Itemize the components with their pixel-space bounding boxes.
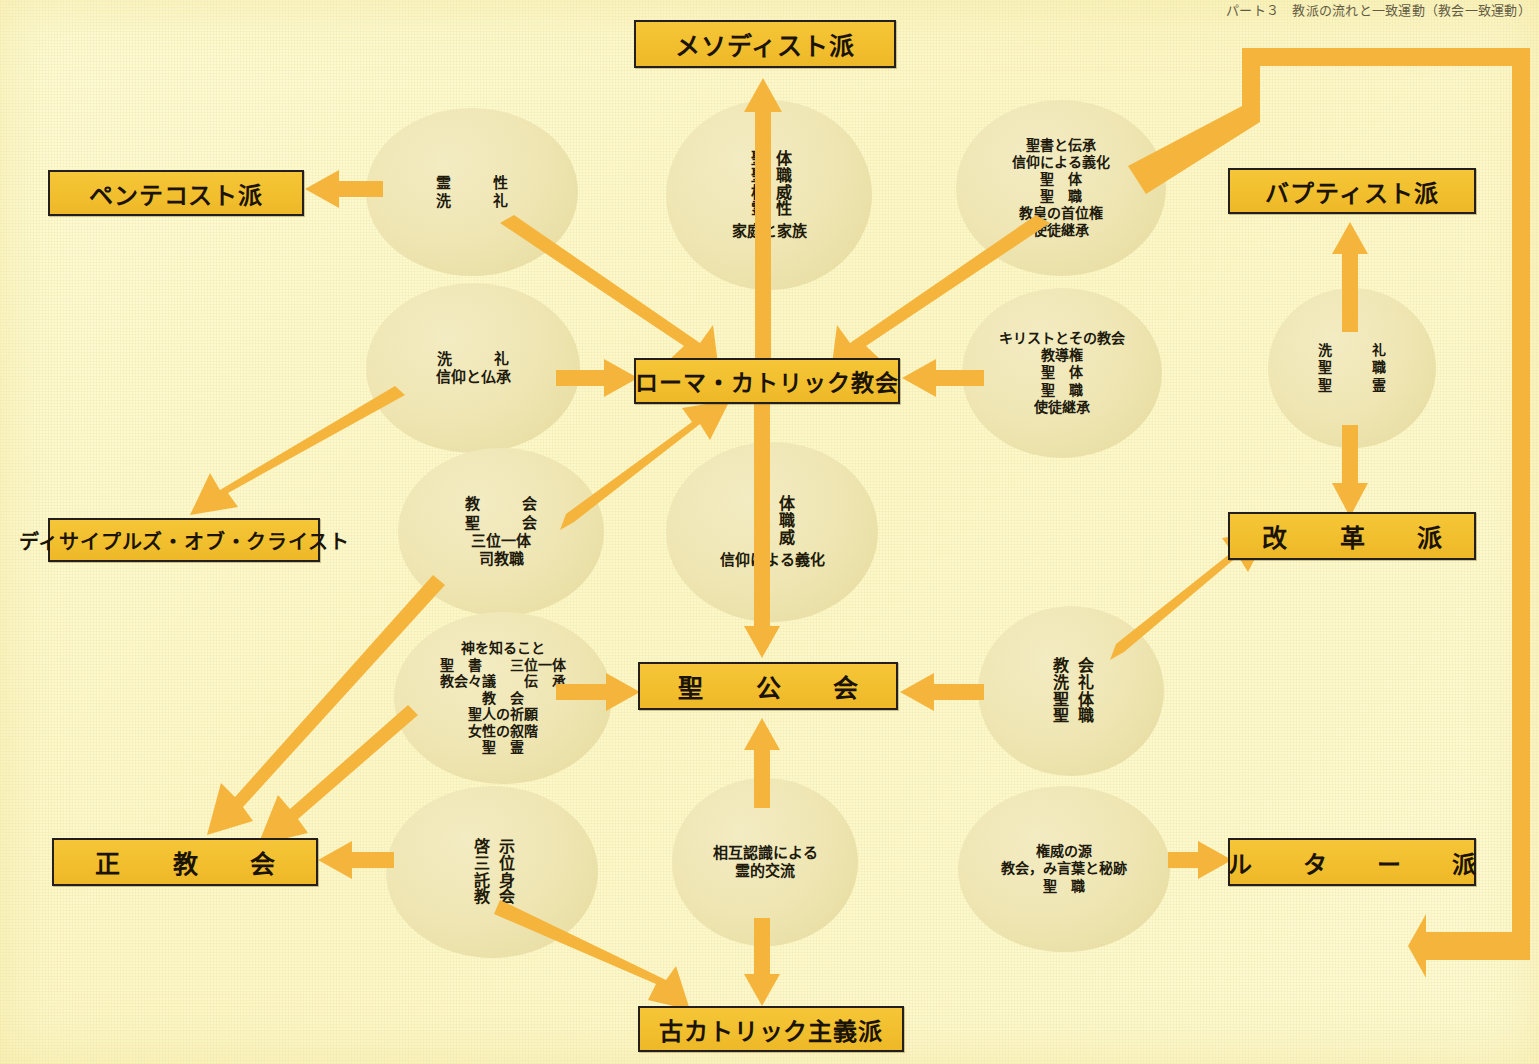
arrow-to-pentecostal — [305, 168, 383, 210]
ellipse-line: 聖 職 — [1001, 878, 1127, 895]
arrow-catholic-to-anglican — [742, 398, 782, 658]
ellipse-line: 三位一体 — [452, 532, 551, 550]
box-roman-catholic[interactable]: ローマ・カトリック教会 — [634, 358, 900, 404]
ellipse-line: 聖 会 — [452, 514, 551, 532]
ellipse-line: 聖 書 三位一体 — [440, 657, 566, 674]
box-old-catholic[interactable]: 古カトリック主義派 — [638, 1006, 904, 1052]
arrow-scripture-to-catholic — [830, 215, 1050, 380]
ellipse-line: 信仰による義化 — [1012, 154, 1110, 171]
ellipse-line: 聖 職 — [999, 382, 1125, 399]
ellipse-line: 聖 職 — [1012, 188, 1110, 205]
diagram-canvas: パート３ 教派の流れと一致運動（教会一致運動） — [0, 0, 1539, 1064]
ellipse-line: 霊的交流 — [713, 862, 818, 880]
corner-note: パート３ 教派の流れと一致運動（教会一致運動） — [1226, 0, 1531, 19]
box-baptist[interactable]: バプティスト派 — [1228, 168, 1476, 214]
ellipse-line: 女性の叙階 — [440, 723, 566, 740]
arrow-knowinggod-to-anglican — [556, 672, 640, 712]
arrow-baptism-to-catholic — [556, 358, 638, 398]
arrow-knowinggod-to-orthodox — [258, 715, 418, 845]
vertical-col-left: 啓三託教 — [470, 838, 489, 905]
ellipse-line: 使徒継承 — [999, 399, 1125, 416]
ellipse-line: 神を知ること — [440, 640, 566, 657]
ellipse-line: 権威の源 — [1001, 843, 1127, 860]
arrow-mutual-to-anglican — [742, 718, 782, 808]
box-methodist[interactable]: メソディスト派 — [634, 20, 896, 68]
box-anglican[interactable]: 聖 公 会 — [638, 662, 898, 710]
arrow-revelation-to-orthodox — [318, 840, 394, 880]
box-pentecostal[interactable]: ペンテコスト派 — [48, 170, 304, 216]
ellipse-line: 霊 性 — [423, 174, 522, 192]
ellipse-line: 聖書と伝承 — [1012, 137, 1110, 154]
arrow-revelation-to-oldcatholic — [500, 900, 690, 1010]
vertical-col-right: 会礼体職 — [1074, 657, 1093, 724]
ellipse-line: 聖 霊 — [440, 739, 566, 756]
arrow-church-to-catholic — [560, 400, 730, 530]
ellipse-line: 相互認識による — [713, 844, 818, 862]
arrow-baptism-to-disciples — [190, 395, 405, 515]
arrow-reformed-ellipse-to-anglican — [900, 672, 984, 712]
ellipse-line: 教 会 — [452, 495, 551, 513]
ellipse-line: 聖人の祈願 — [440, 706, 566, 723]
ellipse-line: 教会々議 伝 承 — [440, 673, 566, 690]
arrow-mutual-to-oldcatholic — [742, 918, 782, 1006]
ellipse-line: 聖 体 — [1012, 171, 1110, 188]
ellipse-line: 司教職 — [452, 550, 551, 568]
ellipse-line: 教会，み言葉と秘跡 — [1001, 860, 1127, 877]
ellipse-line: 教 会 — [440, 690, 566, 707]
arrow-christchurch-to-catholic — [902, 358, 984, 398]
box-lutheran[interactable]: ル タ ー 派 — [1228, 838, 1476, 886]
box-reformed[interactable]: 改 革 派 — [1228, 512, 1476, 560]
vertical-col-right: 示位身会 — [495, 838, 514, 905]
box-disciples-of-christ[interactable]: ディサイプルズ・オブ・クライスト — [48, 518, 320, 562]
vertical-col-left: 教洗聖聖 — [1049, 657, 1068, 724]
ellipse-line: 洗 礼 — [423, 192, 522, 210]
arrow-spirituality-to-catholic — [500, 215, 720, 380]
arrow-catholic-to-methodist — [742, 78, 784, 368]
box-orthodox[interactable]: 正 教 会 — [52, 838, 318, 886]
